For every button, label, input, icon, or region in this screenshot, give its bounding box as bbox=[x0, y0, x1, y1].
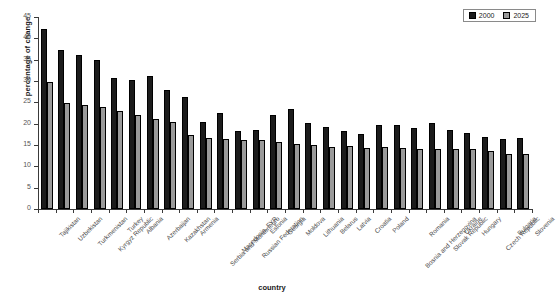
bar-2025 bbox=[241, 140, 247, 209]
chart-legend: 20002025 bbox=[463, 9, 536, 22]
x-axis-tick bbox=[391, 209, 392, 213]
bar-2025 bbox=[135, 115, 141, 209]
legend-swatch-icon bbox=[503, 12, 510, 19]
bar-2025 bbox=[506, 154, 512, 209]
bar-group bbox=[429, 17, 441, 209]
x-axis-tick bbox=[73, 209, 74, 213]
y-axis-tick: 45 bbox=[34, 17, 38, 18]
x-axis-tick bbox=[426, 209, 427, 213]
bar-group bbox=[270, 17, 282, 209]
x-axis-tick bbox=[91, 209, 92, 213]
x-axis-tick bbox=[285, 209, 286, 213]
legend-label: 2000 bbox=[479, 12, 495, 19]
y-axis-tick-label: 45 bbox=[23, 12, 31, 19]
bar-2025 bbox=[347, 146, 353, 209]
x-axis-category-labels: TajikistanUzbekistanTurkmenistanKyrgyz R… bbox=[38, 215, 532, 281]
plot-area: 051015202530354045 bbox=[38, 17, 532, 209]
x-axis-category-label: Poland bbox=[391, 215, 410, 234]
x-axis-tick bbox=[461, 209, 462, 213]
y-axis-tick: 15 bbox=[34, 145, 38, 146]
bar-group bbox=[288, 17, 300, 209]
bar-2025 bbox=[435, 149, 441, 209]
y-axis-tick: 40 bbox=[34, 38, 38, 39]
x-axis-tick bbox=[373, 209, 374, 213]
bar-group bbox=[517, 17, 529, 209]
y-axis-tick: 30 bbox=[34, 81, 38, 82]
y-axis-tick-label: 25 bbox=[23, 97, 31, 104]
x-axis-tick bbox=[197, 209, 198, 213]
x-axis-tick bbox=[109, 209, 110, 213]
y-axis-tick-label: 40 bbox=[23, 33, 31, 40]
y-axis-tick: 5 bbox=[34, 188, 38, 189]
bar-group bbox=[482, 17, 494, 209]
bar-2025 bbox=[453, 149, 459, 209]
bar-2025 bbox=[329, 147, 335, 209]
bar-group bbox=[464, 17, 476, 209]
y-axis-tick-label: 20 bbox=[23, 119, 31, 126]
bar-group bbox=[305, 17, 317, 209]
x-axis-tick bbox=[56, 209, 57, 213]
bar-group bbox=[164, 17, 176, 209]
bar-2025 bbox=[488, 151, 494, 209]
y-axis-title: percentage of change bbox=[23, 0, 32, 132]
bar-2025 bbox=[364, 148, 370, 209]
x-axis-category-label: Latvia bbox=[355, 215, 372, 232]
x-axis-tick bbox=[514, 209, 515, 213]
y-axis-tick-label: 35 bbox=[23, 55, 31, 62]
bar-group bbox=[235, 17, 247, 209]
y-axis-tick: 35 bbox=[34, 60, 38, 61]
bar-2025 bbox=[153, 119, 159, 209]
x-axis-category-label: Romania bbox=[428, 215, 451, 238]
y-axis-tick-label: 15 bbox=[23, 140, 31, 147]
bar-2025 bbox=[417, 149, 423, 209]
bar-group bbox=[129, 17, 141, 209]
x-axis-tick bbox=[214, 209, 215, 213]
bar-2025 bbox=[523, 154, 529, 209]
x-axis-tick bbox=[338, 209, 339, 213]
x-axis-title: country bbox=[0, 283, 544, 292]
bar-2025 bbox=[82, 105, 88, 209]
bar-2025 bbox=[117, 111, 123, 209]
bar-group bbox=[323, 17, 335, 209]
bar-2025 bbox=[276, 142, 282, 209]
legend-item: 2025 bbox=[503, 12, 529, 19]
legend-swatch-icon bbox=[469, 12, 476, 19]
bar-group bbox=[411, 17, 423, 209]
bar-group bbox=[200, 17, 212, 209]
x-axis-tick bbox=[479, 209, 480, 213]
x-axis-tick bbox=[320, 209, 321, 213]
bar-2025 bbox=[400, 148, 406, 209]
bar-2025 bbox=[294, 144, 300, 209]
x-axis-category-label: Croatia bbox=[373, 215, 393, 235]
bar-2025 bbox=[470, 149, 476, 209]
bar-group bbox=[376, 17, 388, 209]
bar-group bbox=[41, 17, 53, 209]
x-axis-tick bbox=[179, 209, 180, 213]
bar-2025 bbox=[259, 140, 265, 209]
bar-group bbox=[394, 17, 406, 209]
bar-2025 bbox=[100, 107, 106, 209]
bar-2025 bbox=[170, 122, 176, 209]
y-axis-tick-label: 10 bbox=[23, 161, 31, 168]
x-axis-tick bbox=[267, 209, 268, 213]
legend-item: 2000 bbox=[469, 12, 495, 19]
bar-2025 bbox=[47, 82, 53, 209]
x-axis-tick bbox=[497, 209, 498, 213]
bar-group bbox=[341, 17, 353, 209]
y-axis-line bbox=[38, 17, 39, 209]
x-axis-tick bbox=[444, 209, 445, 213]
bar-group bbox=[253, 17, 265, 209]
x-axis-tick bbox=[144, 209, 145, 213]
x-axis-tick bbox=[250, 209, 251, 213]
bar-group bbox=[358, 17, 370, 209]
x-axis-tick bbox=[38, 209, 39, 213]
bar-2025 bbox=[223, 139, 229, 209]
bar-2025 bbox=[382, 147, 388, 209]
x-axis-tick bbox=[162, 209, 163, 213]
y-axis-tick: 25 bbox=[34, 102, 38, 103]
y-axis-tick-label: 0 bbox=[27, 204, 31, 211]
x-axis-tick bbox=[409, 209, 410, 213]
bar-2025 bbox=[64, 103, 70, 209]
bar-2025 bbox=[188, 135, 194, 209]
